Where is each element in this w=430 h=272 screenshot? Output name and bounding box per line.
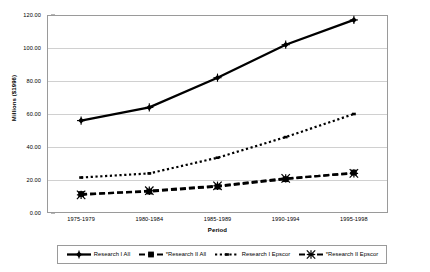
- legend-key-star-icon: [298, 249, 324, 260]
- y-axis-tick-label: 120.00: [23, 12, 41, 18]
- legend-item-label: Research I All: [94, 251, 130, 258]
- data-point-diamond: [350, 16, 358, 24]
- data-point-dot: [352, 113, 356, 116]
- legend-key-square-icon: [138, 249, 164, 260]
- legend-item[interactable]: Research I Epscor: [214, 249, 291, 260]
- data-point-diamond: [75, 250, 83, 258]
- line-chart: Millions ($1996) 0.0020.0040.0060.0080.0…: [0, 0, 430, 272]
- chart-legend: Research I All*Research II AllResearch I…: [57, 245, 387, 264]
- data-point-star: [307, 250, 315, 258]
- legend-item[interactable]: Research I All: [66, 249, 130, 260]
- y-axis-tick-label: 0.00: [30, 210, 41, 216]
- data-point-diamond: [77, 117, 85, 125]
- data-point-star: [145, 187, 153, 195]
- series-0: [77, 16, 358, 125]
- series-overlay: [47, 15, 388, 213]
- data-point-diamond: [145, 103, 153, 111]
- legend-item-label: *Research II Epscor: [326, 251, 379, 258]
- legend-key-diamond-icon: [66, 249, 92, 260]
- x-axis-tick-label: 1980-1984: [135, 216, 163, 223]
- x-axis-tick-label: 1995-1998: [340, 216, 368, 223]
- y-axis-tick-label: 20.00: [27, 177, 42, 183]
- data-point-star: [282, 174, 290, 182]
- y-axis-tick-label: 100.00: [23, 45, 41, 51]
- x-axis-tick-label: 1985-1989: [204, 216, 232, 223]
- series-2: [79, 113, 356, 179]
- data-point-star: [350, 169, 358, 177]
- data-point-dot: [216, 156, 220, 159]
- x-axis-tick-label: 1975-1979: [67, 216, 95, 223]
- legend-item-label: *Research II All: [166, 251, 206, 258]
- legend-item[interactable]: *Research II Epscor: [298, 249, 379, 260]
- series-3: [77, 169, 358, 199]
- data-point-square: [148, 252, 154, 258]
- legend-item[interactable]: *Research II All: [138, 249, 206, 260]
- y-axis-tick-label: 80.00: [27, 78, 42, 84]
- x-axis-tick-label: 1990-1994: [272, 216, 300, 223]
- x-axis-title: Period: [47, 227, 388, 233]
- data-point-dot: [225, 253, 229, 256]
- y-axis-tick-labels: 0.0020.0040.0060.0080.00100.00120.00: [10, 15, 44, 213]
- data-point-dot: [284, 136, 288, 139]
- legend-key-dot-icon: [214, 249, 240, 260]
- legend-item-label: Research I Epscor: [242, 251, 291, 258]
- y-axis-tick-label: 60.00: [27, 111, 42, 117]
- data-point-diamond: [282, 41, 290, 49]
- data-point-star: [213, 182, 221, 190]
- data-point-star: [77, 191, 85, 199]
- data-point-dot: [79, 176, 83, 179]
- data-point-diamond: [213, 74, 221, 82]
- y-axis-tick-label: 40.00: [27, 144, 42, 150]
- data-point-dot: [147, 172, 151, 175]
